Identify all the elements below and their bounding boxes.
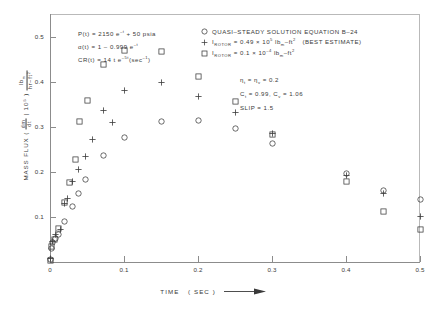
y-axis-tick — [50, 37, 56, 38]
data-point-plus — [99, 106, 108, 115]
y-axis-scale: | 10⁵ — [22, 98, 29, 115]
arrow-right-icon — [224, 288, 266, 296]
y-axis-lb-sub: m — [22, 75, 26, 79]
y-axis-dt: dt — [27, 118, 32, 129]
y-axis-units-denominator: hr–ft2 — [27, 70, 33, 90]
data-point-circle — [120, 133, 129, 142]
y-axis-hrft-sup: 2 — [26, 71, 30, 74]
equation-3-unit-open: (sec — [129, 56, 143, 63]
data-point-square — [83, 96, 92, 105]
y-axis-tick — [50, 82, 56, 83]
data-point-plus — [108, 118, 117, 127]
data-point-plus — [231, 108, 240, 117]
data-point-square — [231, 97, 240, 106]
legend-2-note: (BEST ESTIMATE) — [302, 38, 361, 45]
x-axis-units: ( SEC ) — [188, 288, 216, 295]
data-point-square — [75, 117, 84, 126]
equation-1-exponent: –t — [120, 29, 124, 34]
x-axis-tick — [346, 256, 347, 262]
equation-3-exponent: –5t — [122, 55, 129, 60]
legend-3-unit: lb — [272, 49, 280, 56]
eta-value: = 0.2 — [263, 76, 279, 83]
y-axis-tick — [50, 172, 56, 173]
x-axis-tick — [420, 256, 421, 262]
x-axis-tick-label: 0.1 — [111, 266, 137, 273]
legend-3-unit-tail: –ft — [284, 49, 292, 56]
data-point-square — [268, 130, 277, 139]
equations-annotation: P(t) = 2150 e–t + 50 psia α(t) = 1 – 0.9… — [78, 26, 156, 65]
x-axis-tick-label: 0.5 — [407, 266, 426, 273]
data-point-square — [342, 177, 351, 186]
data-point-square — [46, 256, 55, 265]
y-axis-tick-label: 0.1 — [14, 213, 44, 220]
legend-2-value: = 0.49 × 10 — [234, 38, 270, 45]
y-axis-units: lbm hr–ft2 — [19, 70, 34, 90]
x-axis-tick-label: 0 — [37, 266, 63, 273]
mass-flux-scatter-figure: 0.10.20.30.40.500.10.20.30.40.5 MASS FLU… — [0, 0, 426, 309]
eta-v-lhs: = η — [248, 76, 258, 83]
data-point-plus — [157, 78, 166, 87]
legend-label-rotor-alt: IROTOR = 0.1 × 10–4 lbm–ft2 — [212, 45, 295, 61]
c-v-value: = 1.06 — [283, 90, 303, 97]
equation-3-lhs: CR(t) = 14 t e — [78, 56, 122, 63]
circle-marker-icon — [196, 28, 212, 35]
equation-1-rhs: + 50 psia — [127, 30, 156, 37]
data-point-square — [60, 198, 69, 207]
y-axis-lb: lb — [18, 79, 24, 85]
data-point-square — [194, 72, 203, 81]
x-axis-tick-label: 0.2 — [185, 266, 211, 273]
data-point-square — [416, 225, 425, 234]
square-marker-icon — [196, 50, 212, 57]
data-point-square — [157, 47, 166, 56]
data-point-circle — [194, 116, 203, 125]
x-axis-line — [50, 262, 420, 263]
data-point-plus — [81, 152, 90, 161]
legend-3-subscript: ROTOR — [214, 54, 231, 59]
x-axis-tick — [124, 256, 125, 262]
y-axis-hrft: hr–ft — [27, 74, 33, 89]
parameter-line-efficiency: ηt = ηv = 0.2 — [240, 74, 303, 88]
equation-2-lhs: α(t) = 1 – 0.999 e — [78, 43, 134, 50]
data-point-square — [65, 178, 74, 187]
data-point-plus — [88, 135, 97, 144]
x-axis-title: TIME ( SEC ) — [0, 288, 426, 296]
legend-3-unit-sup: 2 — [292, 48, 295, 53]
equation-1-lhs: P(t) = 2150 e — [78, 30, 120, 37]
eta-t-subscript: t — [244, 80, 246, 85]
data-point-circle — [99, 151, 108, 160]
y-axis-line — [50, 14, 51, 262]
x-axis-tick — [198, 256, 199, 262]
data-point-square — [71, 155, 80, 164]
c-values: = 0.99, C — [249, 90, 278, 97]
data-point-plus — [416, 212, 425, 221]
x-axis-tick-label: 0.3 — [259, 266, 285, 273]
equation-2-exponent: –t — [134, 42, 138, 47]
y-axis-close-paren: ) — [22, 93, 29, 96]
parameter-line-coefficients: Ct = 0.99, Cv = 1.06 — [240, 88, 303, 102]
data-point-circle — [157, 117, 166, 126]
legend: QUASI–STEADY SOLUTION EQUATION B–24 IROT… — [196, 26, 362, 59]
data-point-plus — [194, 92, 203, 101]
eta-v-subscript: v — [258, 80, 261, 85]
legend-2-unit-tail: –ft — [285, 38, 293, 45]
y-axis-open-paren: ( — [22, 132, 29, 135]
data-point-circle — [231, 124, 240, 133]
c-v-subscript: v — [278, 94, 281, 99]
legend-2-unit: lb — [273, 38, 281, 45]
data-point-plus — [74, 165, 83, 174]
equation-line-2: α(t) = 1 – 0.999 e–t — [78, 39, 156, 52]
plus-marker-icon — [196, 39, 212, 46]
y-axis-title-text: MASS FLUX — [22, 137, 29, 180]
data-point-square — [54, 224, 63, 233]
data-point-plus — [120, 86, 129, 95]
parameters-annotation: ηt = ηv = 0.2 Ct = 0.99, Cv = 1.06 SLIP … — [240, 74, 303, 113]
y-axis-tick — [50, 127, 56, 128]
equation-3-unit-close: ) — [148, 56, 151, 63]
y-axis-tick — [50, 217, 56, 218]
equation-line-1: P(t) = 2150 e–t + 50 psia — [78, 26, 156, 39]
legend-3-value: = 0.1 × 10 — [234, 49, 266, 56]
data-point-circle — [268, 139, 277, 148]
x-axis-title-text: TIME — [160, 288, 179, 295]
equation-line-3: CR(t) = 14 t e–5t(sec–1) — [78, 52, 156, 65]
y-axis-title: MASS FLUX ( dm dt | 10⁵ ) lbm hr–ft2 — [19, 37, 34, 213]
